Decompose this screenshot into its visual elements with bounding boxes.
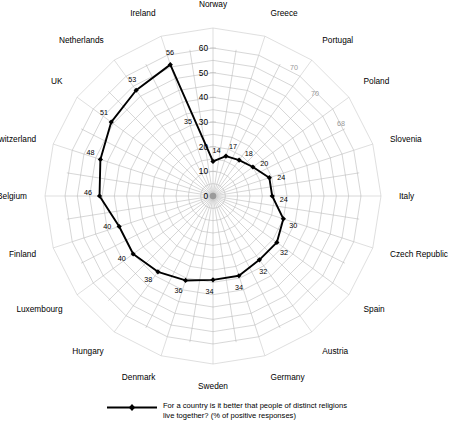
axis-spoke-outer [354,242,373,248]
axis-label-czech-republic: Czech Republic [390,249,448,259]
radial-tick-label-60: 60 [199,43,209,53]
radial-tick-label-30: 30 [199,117,209,127]
axis-subspoke [213,196,318,301]
data-label-segment-annotation: 35 [184,117,192,126]
axis-label-greece: Greece [271,8,299,18]
axis-label-uk: UK [51,76,63,86]
axis-label-sweden: Sweden [198,381,228,391]
legend-line-marker-icon [106,402,158,413]
axis-label-germany: Germany [271,372,306,382]
axis-spoke-outer [53,144,72,150]
axis-subspoke [213,196,280,328]
data-label-denmark: 36 [175,286,183,295]
data-label-belgium: 46 [84,188,92,197]
data-label-portugal: 18 [245,149,253,158]
axis-spoke-outer [333,283,349,295]
chart-legend: For a country is it better that people o… [0,401,453,421]
data-label-netherlands: 53 [128,75,136,84]
ghost-annotation-70-1: 70 [311,89,319,98]
axis-label-norway: Norway [199,0,228,9]
data-point-switzerland [98,157,103,162]
data-label-czech-republic: 30 [289,221,297,230]
axis-label-italy: Italy [399,191,415,201]
axis-label-luxembourg: Luxembourg [16,304,63,314]
data-label-sweden: 34 [206,287,214,296]
radar-center-hub [210,193,216,199]
axis-spoke-outer [300,316,312,332]
axis-spoke-outer [259,337,265,356]
axis-label-finland: Finland [9,249,37,259]
radial-tick-label-50: 50 [199,68,209,78]
axis-label-portugal: Portugal [322,35,353,45]
axis-label-ireland: Ireland [130,8,156,18]
data-label-poland: 20 [260,159,268,168]
axis-spoke-outer [354,144,373,150]
axis-subspoke [146,196,213,328]
data-point-denmark [183,278,188,283]
axis-label-slovenia: Slovenia [390,134,422,144]
data-label-hungary: 38 [144,275,152,284]
radial-tick-label-40: 40 [199,92,209,102]
data-label-greece: 17 [229,142,237,151]
data-label-norway: 14 [213,146,221,155]
axis-subspoke [190,196,213,342]
axis-spoke-outer [77,97,93,109]
axis-label-spain: Spain [364,304,386,314]
axis-subspoke [213,173,359,196]
radar-chart: 0102030405060NorwayGreecePortugalPolandS… [0,0,453,427]
ghost-annotation-70-0: 70 [290,63,298,72]
axis-subspoke [81,196,213,263]
axis-spoke-outer [300,60,312,76]
axis-spoke-outer [114,60,126,76]
data-label-austria: 32 [259,267,267,276]
axis-label-netherlands: Netherlands [59,35,104,45]
axis-label-belgium: Belgium [0,191,27,201]
axis-subspoke [213,50,236,196]
axis-subspoke [213,196,345,263]
axis-spoke-outer [333,97,349,109]
legend-entry: For a country is it better that people o… [106,401,347,421]
legend-label-line-2: live together? (% of positive responses) [163,411,347,421]
ghost-annotation-68-2: 68 [337,119,345,128]
data-label-slovenia: 24 [277,173,285,182]
data-point-greece [223,154,228,159]
axis-subspoke [213,196,236,342]
radial-tick-label-0: 0 [203,191,208,201]
axis-spoke-outer [259,36,265,55]
axis-spoke-outer [161,337,167,356]
axis-spoke-outer [77,283,93,295]
data-label-italy: 24 [280,195,288,204]
data-label-switzerland: 48 [87,148,95,157]
axis-label-austria: Austria [322,346,348,356]
axis-label-switzerland: Switzerland [0,134,36,144]
axis-subspoke [213,129,345,196]
legend-label: For a country is it better that people o… [163,401,347,421]
axis-label-hungary: Hungary [72,346,104,356]
axis-spoke-outer [53,242,72,248]
data-label-ireland: 56 [166,48,174,57]
data-point-sweden [210,277,215,282]
data-label-germany: 34 [235,283,243,292]
axis-label-denmark: Denmark [122,372,157,382]
axis-subspoke [108,196,213,301]
axis-subspoke [67,196,213,219]
axis-label-poland: Poland [364,76,390,86]
data-label-luxembourg: 40 [118,254,126,263]
axis-spoke-outer [114,316,126,332]
radial-tick-label-10: 10 [199,166,209,176]
data-label-finland: 40 [103,222,111,231]
data-label-uk: 51 [100,108,108,117]
legend-label-line-1: For a country is it better that people o… [163,401,347,411]
radar-plot-area: 0102030405060NorwayGreecePortugalPolandS… [0,0,453,427]
data-label-spain: 32 [280,248,288,257]
